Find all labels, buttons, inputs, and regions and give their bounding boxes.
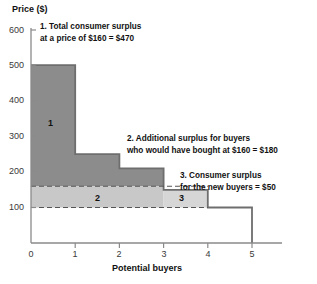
y-tick-label-500: 500 <box>2 60 24 70</box>
annotation-2-line-2: who would have bought at $160 = $180 <box>127 145 278 157</box>
y-tick-label-100: 100 <box>2 202 24 212</box>
annotation-3-line-2: for the new buyers = $50 <box>180 182 276 194</box>
x-tick-label-0: 0 <box>25 249 37 259</box>
annotation-2-line-1: 2. Additional surplus for buyers <box>127 133 278 145</box>
annotation-additional-surplus: 2. Additional surplus for buyers who wou… <box>127 133 278 156</box>
y-axis-title: Price ($) <box>12 4 48 14</box>
x-tick-label-4: 4 <box>202 249 214 259</box>
y-tick-label-400: 400 <box>2 95 24 105</box>
annotation-1-line-2: at a price of $160 = $470 <box>40 33 141 45</box>
x-tick-label-5: 5 <box>246 249 258 259</box>
region-label-3: 3 <box>179 193 184 203</box>
x-tick-label-1: 1 <box>69 249 81 259</box>
consumer-surplus-chart: Price ($) Potential buyers 600 500 400 3… <box>0 0 317 284</box>
x-tick-label-2: 2 <box>113 249 125 259</box>
annotation-3-line-1: 3. Consumer surplus <box>180 170 276 182</box>
x-tick-label-3: 3 <box>158 249 170 259</box>
annotation-total-consumer-surplus: 1. Total consumer surplus at a price of … <box>40 21 141 44</box>
region-label-2: 2 <box>95 193 100 203</box>
x-axis-title: Potential buyers <box>112 263 182 273</box>
y-tick-label-200: 200 <box>2 166 24 176</box>
annotation-1-line-1: 1. Total consumer surplus <box>40 21 141 33</box>
y-tick-label-300: 300 <box>2 131 24 141</box>
region-label-1: 1 <box>48 118 53 128</box>
annotation-new-buyer-surplus: 3. Consumer surplus for the new buyers =… <box>180 170 276 193</box>
y-tick-label-600: 600 <box>2 25 24 35</box>
